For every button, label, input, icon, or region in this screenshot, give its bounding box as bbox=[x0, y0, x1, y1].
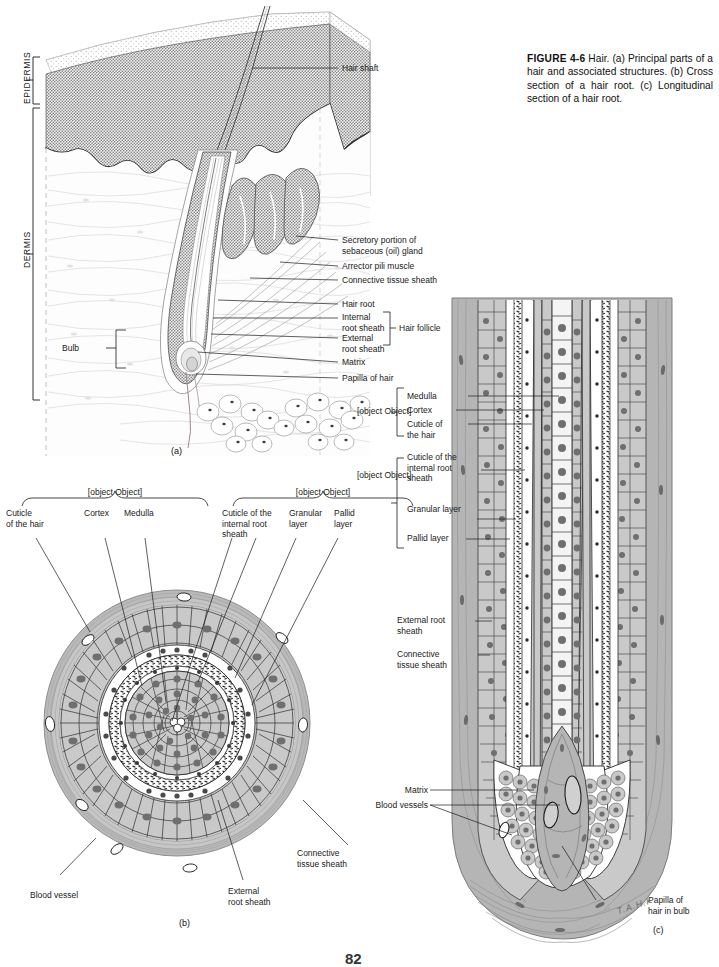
granular-layer-label-c: Granular layer bbox=[407, 504, 461, 515]
dermis-label: DERMIS bbox=[22, 231, 32, 268]
blood-vessel-label-b: Blood vessel bbox=[30, 890, 78, 901]
medulla-label-b: Medulla bbox=[124, 508, 154, 519]
granular-layer-label-b: Granular layer bbox=[289, 508, 322, 529]
bulb-label: Bulb bbox=[62, 343, 79, 354]
panel-c-letter: (c) bbox=[653, 925, 664, 935]
matrix-label-c: Matrix bbox=[370, 785, 428, 796]
blood-vessels-label-c: Blood vessels bbox=[354, 800, 428, 811]
hair-follicle-label: Hair follicle bbox=[399, 323, 441, 334]
panel-b-artwork bbox=[22, 491, 413, 880]
page-number: 82 bbox=[345, 950, 362, 967]
cuticle-of-internal-root-sheath-label-b: Cuticle of the internal root sheath bbox=[222, 508, 272, 540]
pallid-layer-label-c: Pallid layer bbox=[407, 533, 449, 544]
hair-root-group-label-c: [object Object] bbox=[357, 406, 411, 417]
epidermis-label: EPIDERMIS bbox=[22, 52, 32, 104]
figure-number: FIGURE 4-6 bbox=[527, 53, 585, 64]
internal-root-sheath-label: Internal root sheath bbox=[342, 312, 385, 333]
connective-tissue-sheath-label-c: Connective tissue sheath bbox=[397, 649, 447, 670]
pallid-layer-label-b: Pallid layer bbox=[334, 508, 355, 529]
papilla-of-hair-label: Papilla of hair bbox=[342, 373, 394, 384]
cuticle-of-internal-root-sheath-label-c: Cuticle of the internal root sheath bbox=[407, 452, 457, 484]
cortex-label-c: Cortex bbox=[407, 405, 432, 416]
hair-root-group-label: [object Object] bbox=[70, 487, 160, 498]
connective-tissue-sheath-label-b: Connective tissue sheath bbox=[297, 848, 347, 869]
internal-root-sheath-group-label-c: [object Object] bbox=[357, 470, 411, 481]
connective-tissue-sheath-label: Connective tissue sheath bbox=[342, 275, 437, 286]
external-root-sheath-label: External root sheath bbox=[342, 333, 385, 354]
external-root-sheath-label-b: External root sheath bbox=[228, 886, 271, 907]
internal-root-sheath-group-label: [object Object] bbox=[278, 487, 368, 498]
external-root-sheath-label-c: External root sheath bbox=[397, 615, 445, 636]
panel-a-artwork bbox=[27, 6, 396, 456]
arrector-pili-muscle-label: Arrector pili muscle bbox=[342, 261, 414, 272]
cuticle-of-the-hair-label-b: Cuticle of the hair bbox=[6, 508, 44, 529]
sebaceous-gland-label: Secretory portion of sebaceous (oil) gla… bbox=[342, 235, 423, 256]
panel-a-letter: (a) bbox=[171, 446, 182, 456]
figure-title: Hair. bbox=[588, 53, 609, 64]
matrix-label: Matrix bbox=[342, 357, 365, 368]
cortex-label-b: Cortex bbox=[84, 508, 109, 519]
figure-caption: FIGURE 4-6 Hair. (a) Principal parts of … bbox=[527, 52, 713, 106]
panel-b-letter: (b) bbox=[179, 918, 190, 928]
hair-shaft-label: Hair shaft bbox=[342, 63, 378, 74]
medulla-label-c: Medulla bbox=[407, 391, 437, 402]
cuticle-of-the-hair-label-c: Cuticle of the hair bbox=[407, 419, 442, 440]
hair-root-label: Hair root bbox=[342, 299, 375, 310]
